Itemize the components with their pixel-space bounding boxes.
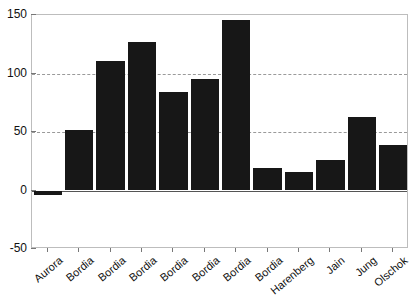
y-tick-mark (31, 248, 36, 249)
bar[interactable] (222, 20, 250, 191)
x-tick-mark (267, 248, 268, 252)
bar[interactable] (65, 130, 93, 191)
x-tick-mark (392, 248, 393, 252)
y-tick-mark (31, 190, 36, 191)
bars-container (32, 15, 407, 247)
x-tick-mark (298, 248, 299, 252)
y-tick-label: 0 (0, 183, 27, 197)
x-tick-mark (329, 248, 330, 252)
x-tick-mark (172, 248, 173, 252)
bar[interactable] (159, 92, 187, 190)
y-tick-mark (31, 14, 36, 15)
x-tick-mark (78, 248, 79, 252)
x-tick-mark (361, 248, 362, 252)
bar[interactable] (191, 79, 219, 190)
x-tick-label: Aurora (0, 254, 64, 306)
y-tick-label: 100 (0, 66, 27, 80)
y-tick-mark (31, 131, 36, 132)
x-tick-mark (204, 248, 205, 252)
x-tick-mark (47, 248, 48, 252)
x-tick-mark (235, 248, 236, 252)
y-tick-mark (31, 73, 36, 74)
bar[interactable] (96, 61, 124, 191)
x-tick-mark (110, 248, 111, 252)
y-tick-label: 50 (0, 124, 27, 138)
plot-area (31, 14, 408, 248)
bar[interactable] (316, 160, 344, 190)
bar[interactable] (379, 145, 407, 191)
x-tick-mark (141, 248, 142, 252)
bar[interactable] (34, 191, 62, 196)
chart-title-clipped (0, 0, 417, 9)
bar[interactable] (253, 168, 281, 190)
y-tick-label: 150 (0, 7, 27, 21)
y-tick-label: -50 (0, 241, 27, 255)
bar[interactable] (285, 172, 313, 191)
bar-chart: 150100500-50AuroraBordiaBordiaBordiaBord… (0, 0, 417, 306)
bar[interactable] (128, 42, 156, 191)
bar[interactable] (348, 117, 376, 191)
